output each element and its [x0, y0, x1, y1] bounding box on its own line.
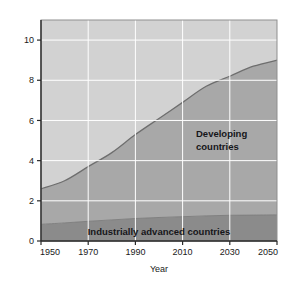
x-axis-title: Year: [150, 264, 168, 274]
industrially-advanced-countries-label: Industrially advanced countries: [88, 226, 231, 237]
developing-countries-label-line2: countries: [196, 141, 239, 152]
y-tick-label-0: 0: [29, 236, 34, 246]
x-tick-label-1990: 1990: [125, 247, 145, 257]
y-axis-ticks: 0246810: [24, 35, 41, 246]
y-tick-label-2: 2: [29, 196, 34, 206]
x-tick-label-1950: 1950: [40, 247, 60, 257]
y-tick-label-6: 6: [29, 116, 34, 126]
x-tick-label-2030: 2030: [220, 247, 240, 257]
population-chart-figure: 0246810 195019701990201020302050 Populat…: [0, 0, 293, 281]
developing-countries-label-line1: Developing: [196, 128, 247, 139]
y-tick-label-4: 4: [29, 156, 34, 166]
x-tick-label-1970: 1970: [78, 247, 98, 257]
chart-canvas: 0246810 195019701990201020302050 Populat…: [0, 0, 293, 281]
y-tick-label-10: 10: [24, 35, 34, 45]
x-axis-ticks: 195019701990201020302050: [40, 241, 278, 257]
y-tick-label-8: 8: [29, 75, 34, 85]
x-tick-label-2050: 2050: [258, 247, 278, 257]
x-tick-label-2010: 2010: [173, 247, 193, 257]
